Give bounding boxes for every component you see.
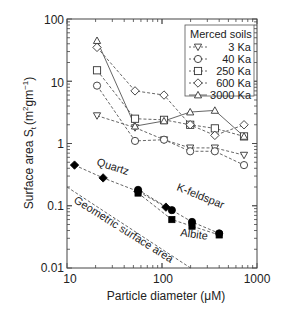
y-tick-1: 1 bbox=[57, 137, 64, 151]
y-tick-100: 100 bbox=[44, 13, 64, 27]
y-tick-10: 10 bbox=[51, 76, 65, 90]
y-axis-label: Surface area St(m2gm−1) bbox=[21, 77, 38, 210]
x-tick-1000: 1000 bbox=[244, 272, 271, 286]
x-tick-100: 100 bbox=[153, 272, 173, 286]
annotation-k-feldspar: K-feldspar bbox=[175, 181, 226, 211]
annotation-quartz: Quartz bbox=[95, 155, 130, 177]
annotation-albite: Albite bbox=[180, 226, 209, 242]
surface-area-chart: 10 100 1000 0.01 0.1 1 10 100 Particle d… bbox=[0, 0, 281, 313]
chart-canvas: 10 100 1000 0.01 0.1 1 10 100 Particle d… bbox=[0, 0, 281, 313]
legend-label-3ka: 3 Ka bbox=[228, 41, 252, 53]
annotation-geometric-surface-area: Geometric surface area bbox=[72, 194, 177, 266]
y-tick-0.01: 0.01 bbox=[41, 261, 65, 275]
legend: Merced soils 3 Ka 40 Ka 250 Ka 600 Ka 30… bbox=[185, 25, 254, 101]
legend-label-600ka: 600 Ka bbox=[216, 77, 252, 89]
legend-label-40ka: 40 Ka bbox=[222, 53, 252, 65]
y-tick-0.1: 0.1 bbox=[47, 199, 64, 213]
legend-label-250ka: 250 Ka bbox=[216, 65, 252, 77]
legend-title: Merced soils bbox=[190, 28, 252, 40]
x-tick-10: 10 bbox=[63, 272, 77, 286]
legend-label-3000ka: 3000 Ka bbox=[210, 89, 252, 101]
x-axis-label: Particle diameter (μM) bbox=[107, 289, 225, 303]
